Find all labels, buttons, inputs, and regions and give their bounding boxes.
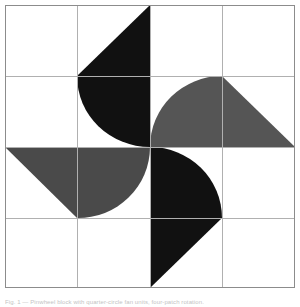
quilt-block-svg [0, 0, 300, 307]
quilt-block-figure [0, 0, 300, 307]
figure-caption: Fig. 1 — Pinwheel block with quarter-cir… [5, 298, 295, 307]
